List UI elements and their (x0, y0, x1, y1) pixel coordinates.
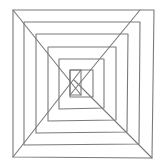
nested-squares-drawing (0, 0, 163, 165)
sketch-canvas (0, 0, 163, 165)
